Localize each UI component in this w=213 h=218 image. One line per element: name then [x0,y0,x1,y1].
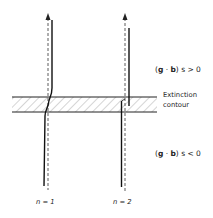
extinction-label-line2: contour [163,102,189,109]
lower-condition-label: (g · b) s < 0 [155,150,201,158]
n1-label: n = 1 [36,199,55,206]
diagram-canvas [0,0,213,218]
upper-condition-label: (g · b) s > 0 [155,66,201,74]
extinction-label-line1: Extinction [163,92,197,99]
n2-arrow-icon [123,13,128,20]
n1-arrow-icon [46,13,51,20]
condition-suffix: ) s > 0 [176,65,201,74]
extinction-contour-band [12,97,157,112]
n2-label: n = 2 [113,199,132,206]
condition-suffix: ) s < 0 [176,149,201,158]
